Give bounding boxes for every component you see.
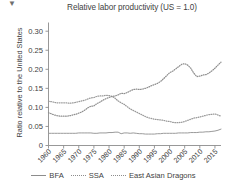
y-axis-tick-label: 0.20 [28, 65, 43, 74]
legend-label-bfa: BFA [49, 171, 63, 180]
x-axis-tick-label: 1980 [96, 147, 114, 165]
y-axis-tick-label: 0.30 [28, 27, 43, 36]
chart-container: ▼ Relative labor productivity (US = 1.0)… [0, 0, 227, 193]
x-axis-tick-label: 2015 [202, 147, 220, 165]
series-line-ssa [49, 95, 222, 122]
legend-item-east-asian-dragons[interactable]: East Asian Dragons [111, 171, 196, 180]
y-axis-tick-label: 0.15 [28, 84, 43, 93]
chart-legend: BFA SSA East Asian Dragons [0, 171, 227, 180]
x-axis-tick-label: 1965 [51, 147, 69, 165]
series-line-bfa [49, 129, 222, 134]
series-line-east-asian-dragons [49, 62, 222, 116]
x-axis-tick-label: 1995 [141, 147, 159, 165]
y-axis-tick-label: 0.25 [28, 46, 43, 55]
legend-item-ssa[interactable]: SSA [71, 171, 104, 180]
legend-swatch-east-asian-dragons-icon [111, 175, 126, 176]
x-axis-tick-label: 1990 [126, 147, 144, 165]
x-axis-tick-label: 1970 [66, 147, 84, 165]
legend-item-bfa[interactable]: BFA [31, 171, 63, 180]
x-axis-tick-label: 1985 [111, 147, 129, 165]
y-axis-tick-label: 0 [39, 141, 43, 150]
series-layer [49, 62, 222, 134]
x-axis-tick-label: 2000 [156, 147, 174, 165]
y-axis-tick-label: 0.05 [28, 122, 43, 131]
y-axis-tick-label: 0.10 [28, 103, 43, 112]
x-axis-tick-label: 1975 [81, 147, 99, 165]
chart-plot-area: 00.050.100.150.200.250.30196019651970197… [0, 0, 227, 193]
legend-swatch-bfa-icon [31, 175, 46, 176]
legend-swatch-ssa-icon [71, 175, 86, 176]
x-axis-tick-label: 2010 [187, 147, 205, 165]
x-axis-tick-label: 2005 [172, 147, 190, 165]
legend-label-east-asian-dragons: East Asian Dragons [129, 171, 196, 180]
legend-label-ssa: SSA [89, 171, 104, 180]
